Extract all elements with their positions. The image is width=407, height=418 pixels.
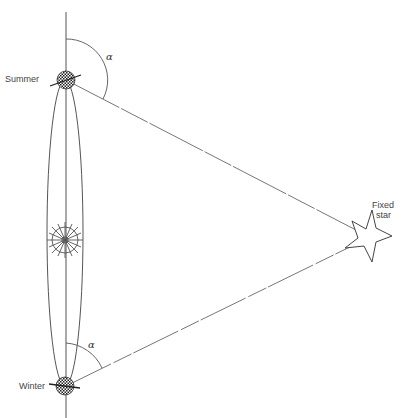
angle-arc-winter (66, 343, 102, 368)
fixed-star-label-line2: star (376, 210, 391, 220)
sun-icon (47, 222, 83, 258)
summer-label: Summer (5, 74, 39, 84)
sight-line-summer (66, 80, 356, 230)
sight-line-winter (66, 244, 356, 386)
angle-alpha-bottom: α (88, 339, 95, 350)
winter-label: Winter (19, 381, 45, 391)
earth-summer-icon (50, 71, 81, 89)
angle-alpha-top: α (106, 51, 113, 62)
fixed-star-label-line1: Fixed (372, 200, 394, 210)
earth-winter-icon (49, 377, 80, 395)
parallax-diagram (0, 0, 407, 418)
angle-arc-summer (66, 39, 108, 99)
